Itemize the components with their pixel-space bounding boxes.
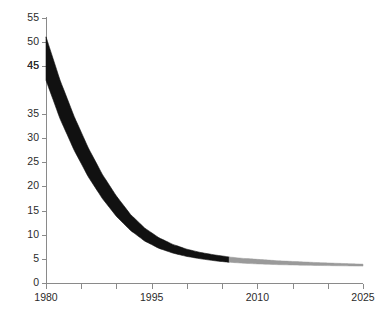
cost-of-energy-chart: COE cents/kwh (2005$) 051015202530354545… xyxy=(0,0,391,317)
coe-band-layer xyxy=(0,0,391,317)
coe-band-historical xyxy=(46,37,229,262)
coe-band-projected xyxy=(229,257,363,266)
